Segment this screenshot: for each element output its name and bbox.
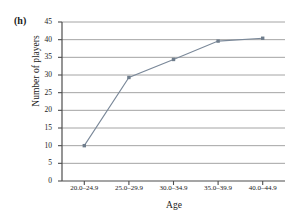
y-tick-label: 45	[30, 18, 52, 26]
y-tick-label: 40	[30, 36, 52, 44]
y-tick-label: 35	[30, 53, 52, 61]
chart-plot-area: Number of players Age 051015202530354045…	[0, 0, 294, 219]
y-tick-label: 15	[30, 124, 52, 132]
data-point-marker	[83, 144, 86, 147]
y-tick-label: 25	[30, 89, 52, 97]
data-line-series	[84, 38, 262, 145]
x-tick-label: 40.0–44.9	[237, 184, 289, 192]
data-point-marker	[127, 76, 130, 79]
y-tick-label: 10	[30, 142, 52, 150]
data-point-marker	[172, 58, 175, 61]
x-axis-title: Age	[62, 200, 286, 210]
data-point-marker	[261, 37, 264, 40]
figure-panel: (h) Number of players Age 05101520253035…	[0, 0, 294, 219]
data-point-marker	[216, 39, 219, 42]
y-tick-label: 30	[30, 71, 52, 79]
y-tick-label: 5	[30, 159, 52, 167]
y-tick-label: 0	[30, 177, 52, 185]
y-tick-label: 20	[30, 106, 52, 114]
data-point-markers-group	[83, 37, 265, 148]
gridlines-group	[62, 22, 285, 163]
